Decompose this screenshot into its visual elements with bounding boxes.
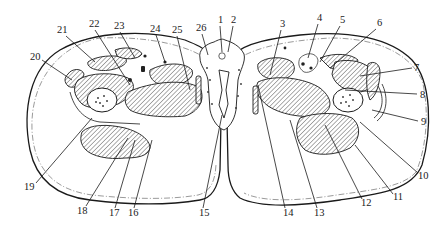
structure-label-11: 11	[393, 191, 403, 202]
leader-line-10	[360, 122, 418, 173]
leader-line-24	[156, 35, 165, 62]
structure-label-1: 1	[218, 14, 223, 25]
anatomical-cross-section-figure: 1234567891011121314151617181920212223242…	[0, 0, 448, 237]
structure-label-22: 22	[89, 18, 100, 29]
structure-label-12: 12	[361, 197, 372, 208]
leader-line-11	[355, 145, 393, 194]
structure-label-2: 2	[231, 14, 236, 25]
leader-line-15	[203, 115, 222, 208]
structure-label-3: 3	[280, 18, 285, 29]
leader-line-20	[42, 60, 72, 80]
left-bone	[87, 88, 117, 112]
structure-label-19: 19	[24, 181, 35, 192]
structure-label-26: 26	[196, 22, 207, 33]
leader-line-4	[308, 24, 318, 58]
structure-label-21: 21	[57, 24, 68, 35]
structure-label-23: 23	[114, 20, 125, 31]
structure-label-24: 24	[150, 23, 161, 34]
structure-label-4: 4	[317, 12, 323, 23]
structure-label-5: 5	[340, 14, 345, 25]
structure-label-20: 20	[30, 51, 41, 62]
structure-label-8: 8	[420, 89, 425, 100]
structure-label-15: 15	[199, 207, 210, 218]
structure-label-13: 13	[314, 207, 325, 218]
structure-label-10: 10	[418, 170, 429, 181]
structure-label-9: 9	[421, 116, 426, 127]
right-bone	[333, 88, 363, 112]
structure-label-25: 25	[172, 24, 183, 35]
left-muscle-group	[65, 48, 202, 159]
diagram-canvas: 1234567891011121314151617181920212223242…	[0, 0, 448, 237]
structure-label-17: 17	[109, 207, 120, 218]
structure-label-6: 6	[377, 17, 382, 28]
structure-label-14: 14	[283, 207, 294, 218]
structure-label-16: 16	[128, 207, 139, 218]
structure-label-7: 7	[414, 62, 419, 73]
leader-line-19	[36, 118, 92, 183]
structure-label-18: 18	[77, 205, 88, 216]
